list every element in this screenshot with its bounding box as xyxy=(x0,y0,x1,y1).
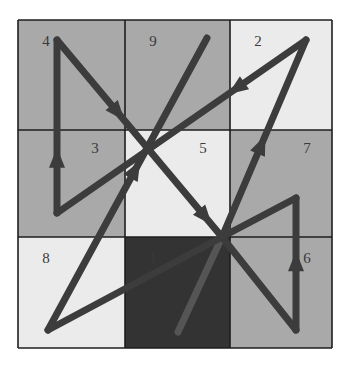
cell-number: 7 xyxy=(303,140,311,156)
cell-number: 3 xyxy=(91,140,99,156)
cell-number: 1 xyxy=(149,250,157,266)
cell-number: 6 xyxy=(303,250,311,266)
cell-number: 8 xyxy=(42,250,50,266)
cell-2 xyxy=(230,20,332,130)
cell-number: 9 xyxy=(149,33,157,49)
cell-6 xyxy=(230,237,332,348)
cell-number: 4 xyxy=(42,33,50,49)
magic-square-diagram: 492357816 xyxy=(0,0,350,367)
cell-9 xyxy=(125,20,230,130)
cell-4 xyxy=(18,20,125,130)
cell-number: 2 xyxy=(254,33,262,49)
cell-number: 5 xyxy=(199,140,207,156)
